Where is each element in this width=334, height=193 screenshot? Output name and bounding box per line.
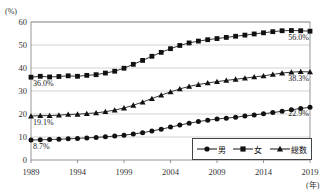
legend-item-total: 総数 <box>270 144 307 155</box>
value-label-end-男: 22.9% <box>288 109 309 118</box>
gridlines <box>31 22 310 137</box>
legend-label-male: 男 <box>218 144 226 155</box>
legend-marker-triangle-icon <box>270 144 290 154</box>
value-label-end-総数: 38.3% <box>288 74 309 83</box>
value-label-start-総数: 19.1% <box>33 118 54 127</box>
value-label-start-男: 8.7% <box>33 142 50 151</box>
legend-marker-square-icon <box>233 144 253 154</box>
value-label-start-女: 36.0% <box>33 79 54 88</box>
legend-item-female: 女 <box>233 144 262 155</box>
plot-area <box>0 0 334 193</box>
value-label-end-女: 56.0% <box>288 33 309 42</box>
legend-marker-circle-icon <box>197 144 217 154</box>
legend-item-male: 男 <box>197 144 226 155</box>
series-1 <box>29 28 313 79</box>
chart-container: (%) (年) 0102030405060 198919941999200420… <box>0 0 334 193</box>
legend-label-total: 総数 <box>291 144 307 155</box>
chart-legend: 男 女 総数 <box>192 138 312 160</box>
legend-label-female: 女 <box>254 144 262 155</box>
